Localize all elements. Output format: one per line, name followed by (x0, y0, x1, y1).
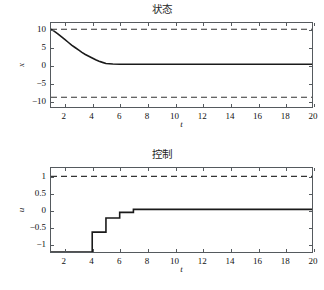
state-x-tick (231, 104, 232, 107)
control-x-tick (148, 249, 149, 252)
state-x-tick (176, 23, 177, 26)
state-series-line (51, 29, 312, 64)
control-x-tick (148, 168, 149, 171)
control-y-tick (51, 211, 54, 212)
control-x-tick (259, 168, 260, 171)
state-y-tick-label: 5 (12, 42, 46, 52)
state-x-tick (259, 104, 260, 107)
control-plot-inner (51, 168, 312, 252)
state-y-tick (51, 102, 54, 103)
control-y-tick (51, 245, 54, 246)
state-x-tick (120, 23, 121, 26)
state-y-tick (51, 66, 54, 67)
control-x-tick (203, 249, 204, 252)
state-x-tick (314, 23, 315, 26)
control-y-tick (309, 245, 312, 246)
state-x-tick (65, 104, 66, 107)
state-x-axis-label: t (50, 119, 313, 129)
state-x-tick (286, 104, 287, 107)
state-x-tick (203, 104, 204, 107)
state-x-tick (65, 23, 66, 26)
state-curve-svg (51, 23, 312, 107)
control-x-tick (93, 168, 94, 171)
control-y-tick (309, 211, 312, 212)
state-plot-inner (51, 23, 312, 107)
control-y-tick (309, 194, 312, 195)
control-x-tick (314, 249, 315, 252)
control-x-tick (120, 168, 121, 171)
state-x-tick (259, 23, 260, 26)
state-x-tick (314, 104, 315, 107)
control-y-tick (51, 177, 54, 178)
state-y-tick-label: −10 (12, 96, 46, 106)
control-y-tick (309, 228, 312, 229)
control-plot-area (50, 167, 313, 253)
control-x-tick (65, 249, 66, 252)
state-x-tick (120, 104, 121, 107)
control-x-tick (259, 249, 260, 252)
control-y-tick (51, 228, 54, 229)
control-chart-title: 控制 (0, 148, 324, 161)
state-x-tick (93, 23, 94, 26)
control-x-tick (65, 168, 66, 171)
control-x-axis-label: t (50, 264, 313, 274)
control-y-tick-label: 0.5 (12, 188, 46, 198)
control-y-tick (51, 194, 54, 195)
state-y-tick (309, 48, 312, 49)
state-y-tick (309, 30, 312, 31)
state-x-tick (148, 23, 149, 26)
state-x-tick (231, 23, 232, 26)
state-y-tick (309, 102, 312, 103)
control-x-tick (314, 168, 315, 171)
control-x-tick (231, 249, 232, 252)
control-y-tick-label: −1 (12, 239, 46, 249)
state-y-tick (51, 84, 54, 85)
state-plot-area (50, 22, 313, 108)
state-y-tick (309, 66, 312, 67)
control-x-tick (176, 168, 177, 171)
state-x-tick (203, 23, 204, 26)
state-x-tick (93, 104, 94, 107)
state-y-tick-label: 10 (12, 24, 46, 34)
state-y-tick (51, 30, 54, 31)
control-y-tick-label: −0.5 (12, 222, 46, 232)
control-x-tick (93, 249, 94, 252)
state-y-tick (309, 84, 312, 85)
control-y-axis-label: u (16, 200, 26, 220)
control-y-tick-label: 1 (12, 171, 46, 181)
control-x-tick (231, 168, 232, 171)
control-x-tick (176, 249, 177, 252)
state-x-tick (176, 104, 177, 107)
control-x-tick (203, 168, 204, 171)
control-panel: 控制 2468101214161820 10.50−0.5−1 t u (0, 145, 324, 290)
state-y-tick-label: −5 (12, 78, 46, 88)
state-x-tick (148, 104, 149, 107)
control-x-tick (120, 249, 121, 252)
control-x-tick (286, 168, 287, 171)
control-series-line (51, 209, 312, 252)
control-x-tick (286, 249, 287, 252)
state-y-axis-label: x (16, 55, 26, 75)
state-panel: 状态 2468101214161820 1050−5−10 t x (0, 0, 324, 145)
state-y-tick (51, 48, 54, 49)
control-curve-svg (51, 168, 312, 252)
control-y-tick (309, 177, 312, 178)
state-chart-title: 状态 (0, 3, 324, 16)
matlab-figure: 状态 2468101214161820 1050−5−10 t x 控制 246… (0, 0, 324, 290)
state-x-tick (286, 23, 287, 26)
